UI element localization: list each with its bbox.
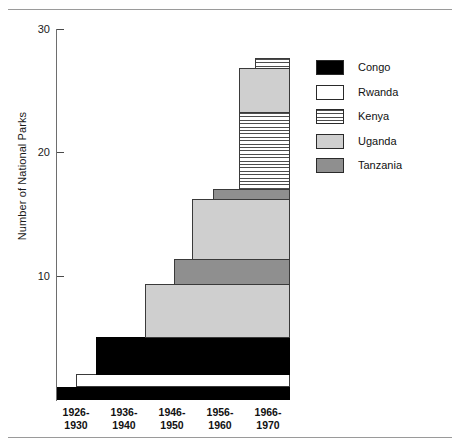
x-tick-line1: 1966- [240, 406, 296, 419]
y-axis-line [56, 29, 57, 401]
legend-label-uganda: Uganda [358, 134, 397, 149]
y-tick-20 [57, 152, 64, 153]
legend-swatch-rwanda-icon [316, 85, 344, 100]
segment-kenya-1 [239, 112, 290, 190]
legend-label-kenya: Kenya [358, 109, 389, 124]
segment-congo-upper [96, 337, 290, 375]
y-tick-label-10: 10 [20, 271, 50, 282]
segment-tanzania-1 [174, 259, 290, 285]
y-axis-title: Number of National Parks [16, 96, 28, 256]
legend-label-tanzania: Tanzania [358, 158, 402, 173]
legend-item-tanzania: Tanzania [316, 156, 456, 181]
legend-item-congo: Congo [316, 58, 456, 83]
legend-swatch-congo-icon [316, 60, 344, 75]
legend-label-rwanda: Rwanda [358, 85, 398, 100]
segment-kenya-2 [255, 58, 290, 69]
legend-swatch-kenya-icon [316, 109, 344, 124]
legend-swatch-tanzania-icon [316, 158, 344, 173]
y-tick-30 [57, 29, 64, 30]
segment-uganda-3 [239, 68, 290, 113]
segment-uganda-1 [145, 284, 290, 338]
y-tick-10 [57, 276, 64, 277]
legend-item-uganda: Uganda [316, 132, 456, 157]
x-tick-label-1966-1970: 1966- 1970 [240, 406, 296, 432]
x-tick-line2: 1970 [240, 419, 296, 432]
segment-congo-base [57, 387, 290, 400]
figure-root: 30 20 10 Number of National Parks 1926- [0, 0, 460, 447]
legend-label-congo: Congo [358, 60, 390, 75]
segment-tanzania-2 [213, 189, 290, 200]
y-axis-title-text: Number of National Parks [16, 112, 28, 240]
legend-item-kenya: Kenya [316, 107, 456, 132]
legend-swatch-uganda-icon [316, 134, 344, 149]
y-tick-label-30: 30 [20, 24, 50, 35]
legend-item-rwanda: Rwanda [316, 83, 456, 108]
segment-rwanda-base [76, 374, 290, 387]
segment-uganda-2 [192, 199, 290, 260]
chart-legend: Congo Rwanda Kenya Uganda Tanzania [316, 58, 456, 181]
